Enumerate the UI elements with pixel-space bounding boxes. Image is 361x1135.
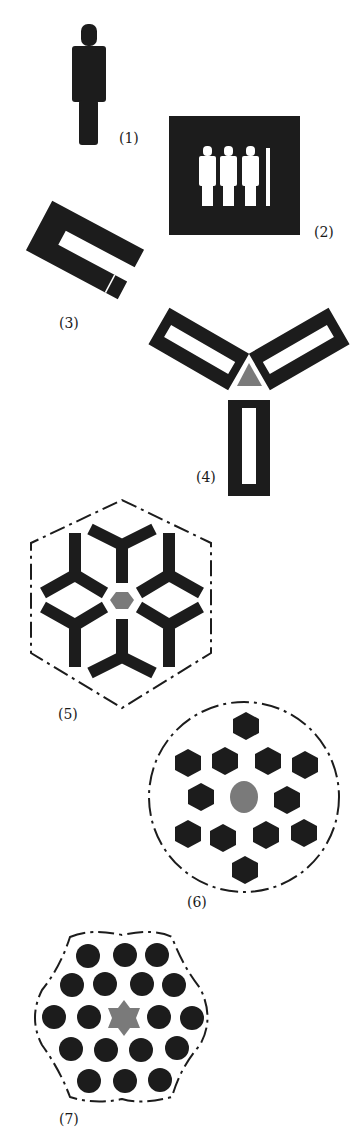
figure-label-5: (5) <box>58 707 78 721</box>
person-icon <box>72 24 106 145</box>
figure-label-6: (6) <box>187 895 207 909</box>
figure-label-3: (3) <box>59 316 79 330</box>
diagram-canvas <box>0 0 361 1135</box>
wavy-hexagon-formation-icon <box>35 932 208 1102</box>
figure-label-1: (1) <box>119 131 139 145</box>
hexagon-formation-icon <box>31 500 211 708</box>
tri-frame-icon <box>148 308 349 496</box>
u-frame-icon <box>26 201 144 299</box>
figure-label-4: (4) <box>196 470 216 484</box>
group-square-icon <box>169 116 300 235</box>
figure-label-2: (2) <box>314 225 334 239</box>
figure-label-7: (7) <box>59 1112 79 1126</box>
circle-formation-icon <box>149 702 339 892</box>
